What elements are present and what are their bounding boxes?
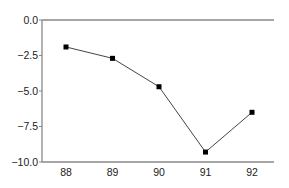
x-tick-label: 90 (153, 166, 165, 178)
data-point-marker (157, 84, 162, 89)
axes (42, 20, 274, 162)
data-point-marker (250, 110, 255, 115)
series-line (66, 47, 252, 152)
y-tick-label: −7.5 (17, 120, 38, 132)
y-tick-label: −5.0 (17, 85, 38, 97)
data-series (64, 44, 255, 154)
x-tick-label: 88 (60, 166, 72, 178)
y-tick-label: −2.5 (17, 49, 38, 61)
y-axis-ticks: 0.0−2.5−5.0−7.5−10.0 (11, 14, 42, 168)
y-tick-label: 0.0 (23, 14, 38, 26)
data-point-marker (110, 56, 115, 61)
line-chart: 0.0−2.5−5.0−7.5−10.0 8889909192 (0, 0, 289, 188)
x-tick-label: 89 (107, 166, 119, 178)
x-axis-ticks: 8889909192 (60, 166, 258, 178)
y-tick-label: −10.0 (11, 156, 38, 168)
data-point-marker (203, 150, 208, 155)
x-tick-label: 92 (246, 166, 258, 178)
x-tick-label: 91 (200, 166, 212, 178)
data-point-marker (64, 44, 69, 49)
